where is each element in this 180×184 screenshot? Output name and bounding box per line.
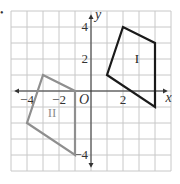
figure-ii-label: II — [48, 105, 57, 120]
y-axis-bottom-arrow-icon — [89, 163, 94, 168]
coordinate-plane-diagram: • xyO −4−2242−4 III — [0, 0, 180, 184]
y-tick-label: 4 — [82, 19, 89, 34]
figure-i-quadrilateral — [107, 27, 155, 107]
x-axis-left-arrow-icon — [14, 89, 19, 94]
figure-i-label: I — [135, 51, 139, 66]
x-tick-label: 2 — [120, 92, 127, 107]
y-axis-label: y — [93, 7, 102, 22]
y-tick-label: 2 — [82, 51, 89, 66]
y-tick-label: −4 — [74, 147, 88, 162]
origin-label: O — [79, 92, 89, 107]
x-axis-label: x — [165, 90, 173, 105]
bullet-marker: • — [0, 7, 4, 18]
y-axis-top-arrow-icon — [89, 14, 94, 19]
